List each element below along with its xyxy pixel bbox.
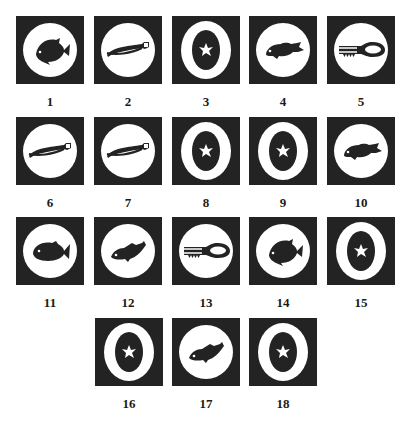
item-number: 7 [94,195,162,211]
stimulus-tile [94,217,162,285]
ring-star-icon [327,217,395,285]
stimulus-tile [172,16,240,84]
item-number: 9 [249,195,317,211]
pliers-icon [94,117,162,185]
item-number: 6 [16,195,84,211]
stimulus-item: 18 [249,318,317,386]
stimulus-tile [172,318,240,386]
stimulus-tile [249,117,317,185]
item-number: 14 [249,295,317,311]
stimulus-item: 6 [16,117,84,185]
ring-star-icon [172,117,240,185]
item-number: 12 [94,295,162,311]
fish-angelfish-icon [16,16,84,84]
item-number: 5 [327,94,395,110]
fish-perch-icon [172,318,240,386]
stimulus-item: 10 [327,117,395,185]
item-number: 10 [327,195,395,211]
stimulus-tile [16,117,84,185]
item-number: 3 [172,94,240,110]
stimulus-item: 3 [172,16,240,84]
pliers-icon [94,16,162,84]
stimulus-tile [16,217,84,285]
stimulus-tile [172,217,240,285]
ring-star-icon [249,117,317,185]
stimulus-item: 4 [249,16,317,84]
item-number: 1 [16,94,84,110]
item-number: 15 [327,295,395,311]
item-number: 16 [95,396,163,412]
item-number: 11 [16,295,84,311]
pliers-icon [16,117,84,185]
stimulus-item: 14 [249,217,317,285]
fish-angelfish-icon [249,217,317,285]
item-number: 2 [94,94,162,110]
stimulus-tile [94,117,162,185]
fish-grouper-icon [327,117,395,185]
stimulus-tile [249,318,317,386]
stimulus-tile [249,16,317,84]
item-number: 17 [172,396,240,412]
stimulus-item: 15 [327,217,395,285]
stimulus-tile [249,217,317,285]
stimulus-item: 17 [172,318,240,386]
stimulus-tile [172,117,240,185]
item-number: 13 [172,295,240,311]
ring-star-icon [95,318,163,386]
stimulus-tile [16,16,84,84]
stimulus-item: 13 [172,217,240,285]
figure-caption-fragment [10,414,400,424]
item-number: 8 [172,195,240,211]
pliers-toothed-icon [172,217,240,285]
fish-grouper-icon [249,16,317,84]
stimulus-item: 1 [16,16,84,84]
stimulus-tile [95,318,163,386]
fish-perch-icon [94,217,162,285]
stimulus-item: 12 [94,217,162,285]
stimulus-tile [327,16,395,84]
stimulus-item: 9 [249,117,317,185]
stimulus-tile [327,117,395,185]
item-number: 4 [249,94,317,110]
stimulus-item: 11 [16,217,84,285]
stimulus-tile [94,16,162,84]
stimulus-item: 2 [94,16,162,84]
ring-star-icon [249,318,317,386]
stimulus-item: 16 [95,318,163,386]
stimulus-tile [327,217,395,285]
stimulus-item: 5 [327,16,395,84]
stimulus-item: 8 [172,117,240,185]
pliers-toothed-icon [327,16,395,84]
ring-star-icon [172,16,240,84]
fish-round-icon [16,217,84,285]
stimulus-item: 7 [94,117,162,185]
item-number: 18 [249,396,317,412]
